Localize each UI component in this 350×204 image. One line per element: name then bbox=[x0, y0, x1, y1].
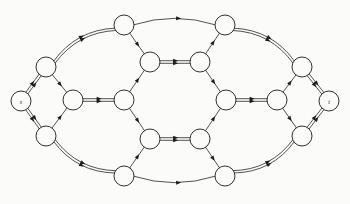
edge-arrowhead-icon bbox=[135, 78, 139, 83]
graph-node-h1[interactable] bbox=[140, 52, 160, 72]
graph-edge bbox=[232, 139, 293, 171]
edge-arrowhead-icon bbox=[57, 115, 62, 120]
edge-arrowhead-icon bbox=[173, 61, 178, 65]
node-layer: st bbox=[11, 15, 339, 186]
graph-edge bbox=[234, 141, 295, 173]
graph-node-a1[interactable] bbox=[36, 57, 56, 77]
graph-node-c2[interactable] bbox=[114, 166, 134, 186]
graph-node-p[interactable] bbox=[267, 90, 287, 110]
edge-arrowhead-icon bbox=[210, 40, 214, 45]
graph-node-e2[interactable] bbox=[292, 126, 312, 146]
edge-arrowhead-icon bbox=[176, 16, 181, 20]
graph-node-h3[interactable] bbox=[140, 129, 160, 149]
edge-arrowhead-icon bbox=[135, 41, 140, 46]
graph-edge bbox=[55, 139, 117, 171]
graph-node-n[interactable] bbox=[216, 90, 236, 110]
graph-node-h2[interactable] bbox=[190, 52, 210, 72]
graph-node-d1[interactable] bbox=[215, 15, 235, 35]
graph-edge bbox=[133, 18, 216, 25]
graph-edge bbox=[53, 28, 115, 61]
graph-node-d2[interactable] bbox=[215, 166, 235, 186]
edge-arrowhead-icon bbox=[173, 138, 178, 142]
graph-figure: st bbox=[0, 0, 350, 204]
graph-node-h4[interactable] bbox=[190, 129, 210, 149]
edge-arrowhead-icon bbox=[80, 38, 85, 42]
graph-edge bbox=[234, 28, 295, 61]
edge-arrowhead-icon bbox=[211, 79, 215, 84]
edge-arrowhead-icon bbox=[287, 116, 291, 121]
graph-edge bbox=[133, 176, 216, 183]
graph-node-a2[interactable] bbox=[36, 126, 56, 146]
graph-node-e1[interactable] bbox=[292, 57, 312, 77]
edge-arrowhead-icon bbox=[135, 154, 140, 159]
edge-arrowhead-icon bbox=[211, 116, 215, 121]
edge-arrowhead-icon bbox=[97, 99, 102, 103]
graph-node-c1[interactable] bbox=[114, 15, 134, 35]
graph-edge bbox=[53, 141, 115, 173]
graph-edge bbox=[232, 30, 293, 63]
directed-graph-canvas: st bbox=[0, 0, 350, 204]
edge-arrowhead-icon bbox=[210, 155, 214, 160]
edge-arrowhead-icon bbox=[176, 181, 181, 185]
graph-edge bbox=[55, 30, 117, 63]
graph-node-b[interactable] bbox=[63, 90, 83, 110]
graph-node-m[interactable] bbox=[114, 90, 134, 110]
edge-arrowhead-icon bbox=[287, 81, 292, 86]
edge-arrowhead-icon bbox=[266, 163, 271, 167]
edge-arrowhead-icon bbox=[135, 118, 139, 123]
edge-arrowhead-icon bbox=[250, 99, 255, 103]
